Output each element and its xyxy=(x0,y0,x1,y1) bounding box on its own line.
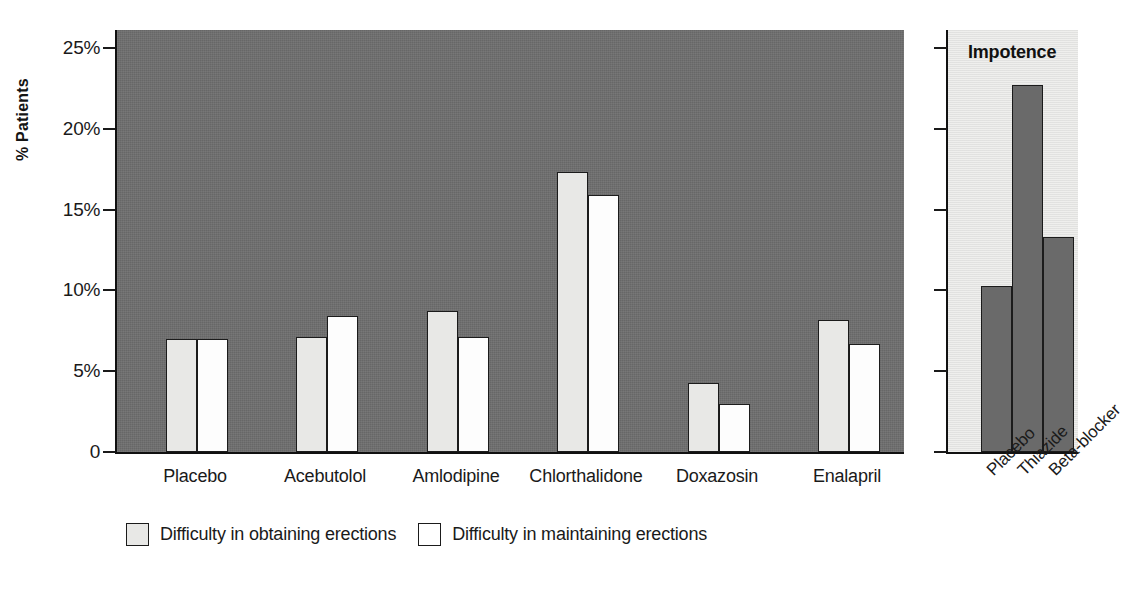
inset-y-tick-mark xyxy=(934,47,947,49)
inset-bar-beta-blocker xyxy=(1043,237,1074,452)
x-tick-label: Enalapril xyxy=(813,466,881,487)
inset-y-tick-mark xyxy=(934,128,947,130)
x-tick-label: Doxazosin xyxy=(676,466,758,487)
bar-placebo-series1 xyxy=(166,339,197,452)
y-tick-label: 15% xyxy=(38,199,100,221)
y-tick-label: 20% xyxy=(38,118,100,140)
bar-doxazosin-series2 xyxy=(719,404,750,452)
legend-item: Difficulty in maintaining erections xyxy=(418,523,707,546)
x-tick-label: Amlodipine xyxy=(412,466,499,487)
inset-y-tick-mark xyxy=(934,289,947,291)
inset-plot-area xyxy=(948,30,1078,452)
y-tick-label: 25% xyxy=(38,37,100,59)
legend: Difficulty in obtaining erectionsDifficu… xyxy=(126,523,707,546)
inset-bar-thiazide xyxy=(1012,85,1043,452)
bar-doxazosin-series1 xyxy=(688,383,719,452)
legend-swatch xyxy=(126,523,149,546)
inset-bar-placebo xyxy=(981,286,1012,452)
inset-y-tick-mark xyxy=(934,370,947,372)
bar-amlodipine-series1 xyxy=(427,311,458,452)
x-tick-label: Chlorthalidone xyxy=(529,466,642,487)
legend-label: Difficulty in obtaining erections xyxy=(160,524,396,545)
x-tick-label: Acebutolol xyxy=(284,466,366,487)
y-tick-label: 0 xyxy=(38,441,100,463)
bar-amlodipine-series2 xyxy=(458,337,489,452)
bar-acebutolol-series2 xyxy=(327,316,358,452)
impotence-bar-chart-figure: % Patients 25%20%15%10%5%0 PlaceboAcebut… xyxy=(0,0,1129,599)
main-x-axis-line xyxy=(115,452,904,454)
bar-acebutolol-series1 xyxy=(296,337,327,452)
legend-label: Difficulty in maintaining erections xyxy=(452,524,707,545)
y-tick-label: 5% xyxy=(38,360,100,382)
bar-placebo-series2 xyxy=(197,339,228,452)
inset-title: Impotence xyxy=(968,42,1056,63)
inset-y-tick-mark xyxy=(934,209,947,211)
y-tick-label: 10% xyxy=(38,279,100,301)
legend-swatch xyxy=(418,523,441,546)
bar-chlorthalidone-series1 xyxy=(557,172,588,452)
bar-enalapril-series1 xyxy=(818,320,849,453)
main-plot-area xyxy=(115,30,904,452)
bar-chlorthalidone-series2 xyxy=(588,195,619,452)
x-tick-label: Placebo xyxy=(163,466,227,487)
legend-item: Difficulty in obtaining erections xyxy=(126,523,396,546)
bar-enalapril-series2 xyxy=(849,344,880,452)
